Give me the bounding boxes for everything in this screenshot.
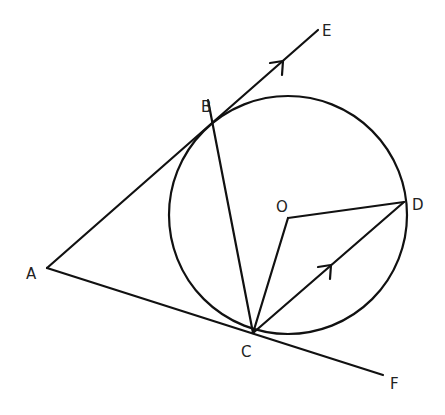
label-d: D	[412, 196, 424, 214]
circle-o	[169, 96, 407, 334]
geometry-diagram: A B C D O E F	[0, 0, 445, 415]
chord-bc	[208, 100, 253, 333]
tangent-line-ae	[47, 30, 318, 268]
label-f: F	[390, 375, 399, 393]
label-o: O	[276, 198, 288, 216]
radius-od	[288, 202, 404, 218]
tangent-line-af	[47, 268, 383, 375]
label-a: A	[26, 265, 37, 283]
radius-oc	[253, 218, 288, 333]
chord-cd	[253, 202, 404, 333]
label-b: B	[201, 98, 211, 116]
label-c: C	[241, 343, 251, 361]
label-e: E	[322, 22, 331, 40]
